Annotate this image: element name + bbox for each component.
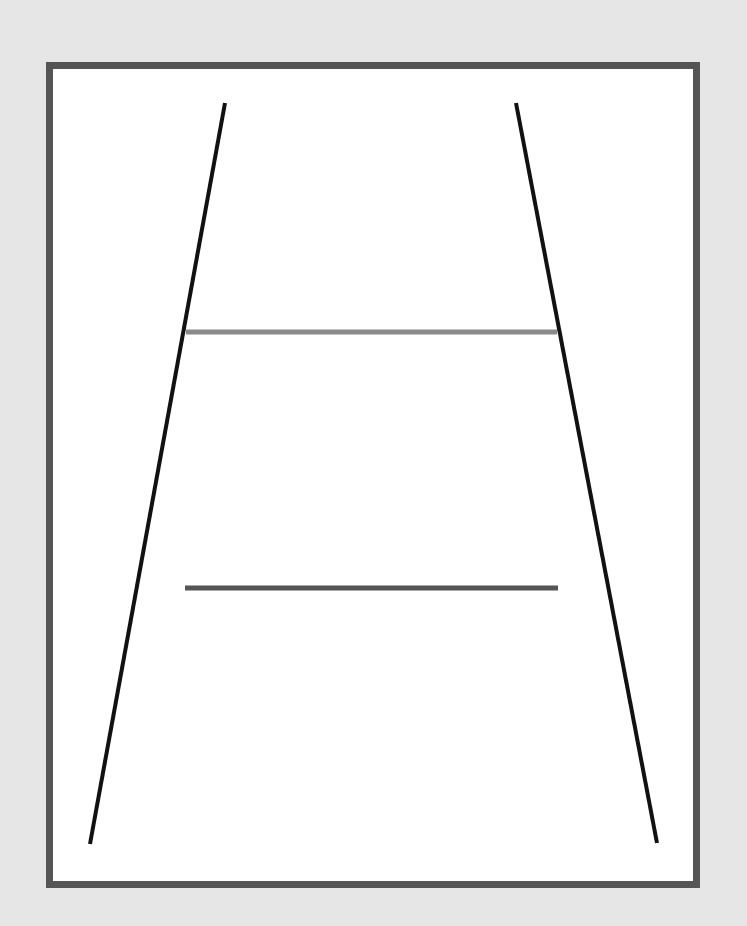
converging-line-right xyxy=(516,103,657,843)
ponzo-illusion-drawing xyxy=(0,0,747,926)
converging-line-left xyxy=(90,103,225,844)
